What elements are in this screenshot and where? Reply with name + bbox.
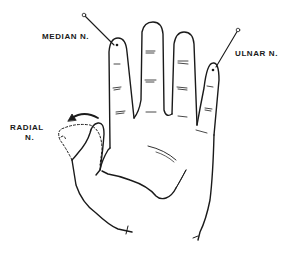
rotation-arrow bbox=[72, 114, 98, 118]
radial-nerve-label: RADIAL bbox=[10, 123, 44, 132]
ulnar-pointer-head bbox=[236, 28, 240, 32]
ulnar-nerve-label: ULNAR N. bbox=[235, 49, 278, 58]
index-finger-outline bbox=[109, 38, 134, 148]
radial-nerve-label-abbrev: N. bbox=[25, 133, 34, 142]
little-finger-outline bbox=[197, 63, 219, 135]
palm-ulnar-edge bbox=[198, 135, 214, 240]
ulnar-test-point bbox=[212, 69, 215, 72]
thumb-folded-outline bbox=[72, 123, 104, 170]
median-pointer-head bbox=[82, 13, 86, 17]
thumb-dotted-position bbox=[59, 124, 102, 165]
median-nerve-label: MEDIAN N. bbox=[42, 32, 89, 41]
ring-finger-outline bbox=[172, 32, 197, 125]
median-test-point bbox=[116, 44, 119, 47]
middle-finger-outline bbox=[134, 22, 172, 118]
thumb-base bbox=[102, 171, 176, 199]
